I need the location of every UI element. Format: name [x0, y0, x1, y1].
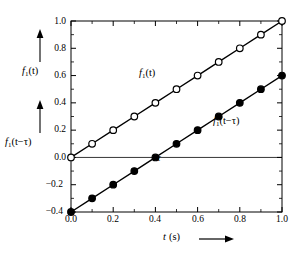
x-tick-label: 1.0 [268, 215, 296, 225]
y-axis-major-ticks [71, 21, 282, 212]
x-axis-major-ticks [71, 21, 282, 212]
series-0-marker [215, 59, 222, 66]
tau-annotation: τ [157, 153, 161, 163]
series-lines [71, 21, 282, 212]
curve-label-lower: f1(t−τ) [213, 116, 239, 128]
x-axis-variable: t [163, 231, 166, 242]
series-0-marker [131, 113, 138, 120]
series-1-marker [131, 168, 138, 175]
series-0-marker [194, 72, 201, 79]
series-1-marker [89, 195, 96, 202]
x-tick-label: 0.8 [226, 215, 254, 225]
x-axis-arrow [199, 235, 234, 242]
series-0-marker [110, 127, 117, 134]
curve-label-upper: f1(t) [139, 68, 155, 80]
series-1-marker [110, 181, 117, 188]
series-0-marker [68, 154, 75, 161]
series-0-marker [258, 31, 265, 38]
series-0-marker [89, 140, 96, 147]
y-tick-label: −0.2 [37, 180, 63, 190]
series-0-marker [173, 86, 180, 93]
series-1-marker [258, 86, 265, 93]
x-axis-unit: (s) [169, 231, 180, 242]
x-axis-label: t(s) [163, 232, 180, 243]
curve-label-lower-arg: (t−τ) [219, 115, 239, 126]
y-axis-label-lower-arg: (t−τ) [11, 136, 31, 147]
series-1-marker [173, 140, 180, 147]
y-axis-minor-ticks [71, 35, 282, 199]
y-tick-label: 0.0 [40, 153, 66, 163]
curve-label-upper-arg: (t) [145, 67, 155, 78]
y-axis-label-upper: f1(t) [22, 66, 38, 78]
x-tick-label: 0.4 [141, 215, 169, 225]
figure-container: 1.0 0.8 0.6 0.4 0.2 0.0 −0.2 −0.4 0.0 0.… [0, 0, 302, 257]
series-markers [68, 18, 286, 216]
plot-frame [71, 21, 282, 212]
series-1-marker [194, 127, 201, 134]
y-axis-label-lower: f1(t−τ) [5, 137, 31, 149]
x-tick-label: 0.2 [99, 215, 127, 225]
series-0-marker [237, 45, 244, 52]
series-0-marker [152, 100, 159, 107]
x-tick-label: 0.0 [57, 215, 85, 225]
y-tick-label: 0.4 [40, 98, 66, 108]
y-tick-label: 0.2 [40, 125, 66, 135]
series-0-marker [279, 18, 286, 25]
y-tick-label: 0.8 [40, 44, 66, 54]
y-axis-label-upper-arg: (t) [28, 65, 38, 76]
series-1-marker [279, 72, 286, 79]
y-tick-label: 1.0 [40, 17, 66, 27]
x-tick-label: 0.6 [184, 215, 212, 225]
y-tick-label: 0.6 [40, 71, 66, 81]
series-1-marker [237, 100, 244, 107]
